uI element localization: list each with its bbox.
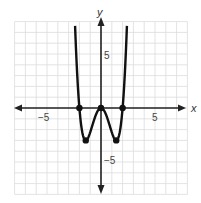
arrow-down-icon — [98, 185, 105, 194]
arrow-right-icon — [178, 105, 186, 112]
function-graph: x y −5 5 5 −5 — [0, 0, 201, 203]
y-tick-5: 5 — [104, 50, 110, 61]
x-axis-label: x — [190, 102, 197, 114]
y-tick-neg5: −5 — [104, 155, 116, 166]
arrow-left-icon — [14, 105, 22, 112]
y-axis-label: y — [96, 6, 104, 18]
x-tick-5: 5 — [152, 112, 158, 123]
x-tick-neg5: −5 — [38, 112, 50, 123]
